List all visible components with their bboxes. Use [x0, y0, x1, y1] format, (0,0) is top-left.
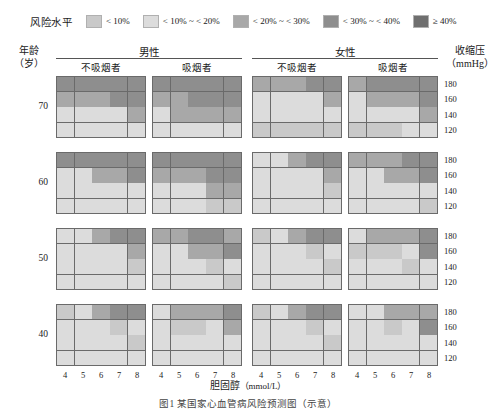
risk-cell — [306, 183, 323, 197]
legend-item-0: < 10% — [86, 15, 130, 28]
risk-cell — [324, 183, 341, 197]
risk-cell — [349, 123, 366, 137]
legend-label-4: ≥ 40% — [433, 16, 457, 26]
risk-cell — [188, 199, 205, 213]
risk-cell — [349, 168, 366, 182]
risk-panel-age40-nonsmoker-female — [252, 304, 342, 366]
risk-cell — [171, 259, 188, 273]
risk-cell — [306, 351, 323, 365]
sbp-tick-label: 140 — [444, 110, 468, 120]
risk-cell — [367, 351, 384, 365]
risk-cell — [57, 123, 74, 137]
risk-cell — [288, 168, 305, 182]
risk-cell — [402, 351, 419, 365]
risk-cell — [306, 275, 323, 289]
sbp-tick-label: 180 — [444, 79, 468, 89]
risk-panel-age60-nonsmoker-female — [252, 152, 342, 214]
risk-cell — [206, 153, 223, 167]
risk-cell — [171, 77, 188, 91]
risk-cell — [402, 199, 419, 213]
risk-cell — [384, 259, 401, 273]
risk-cell — [92, 199, 109, 213]
risk-cell — [367, 199, 384, 213]
risk-cell — [188, 107, 205, 121]
risk-cell — [57, 183, 74, 197]
sbp-tick-label: 120 — [444, 353, 468, 363]
risk-cell — [367, 183, 384, 197]
risk-cell — [349, 229, 366, 243]
risk-cell — [75, 123, 92, 137]
risk-cell — [324, 107, 341, 121]
risk-cell — [128, 107, 145, 121]
risk-cell — [57, 259, 74, 273]
risk-cell — [288, 229, 305, 243]
risk-cell — [402, 123, 419, 137]
risk-panel-age40-nonsmoker-male — [56, 304, 146, 366]
risk-cell — [153, 168, 170, 182]
risk-cell — [384, 305, 401, 319]
risk-cell — [128, 259, 145, 273]
risk-cell — [57, 320, 74, 334]
risk-cell — [75, 92, 92, 106]
risk-cell — [188, 168, 205, 182]
risk-cell — [288, 305, 305, 319]
age-group-label-50: 50 — [26, 253, 48, 263]
risk-cell — [306, 259, 323, 273]
risk-cell — [92, 92, 109, 106]
legend: 风险水平 < 10%< 10% ~ < 20%< 20% ~ < 30%< 30… — [0, 10, 496, 32]
risk-cell — [92, 168, 109, 182]
age-axis-title: 年龄 — [6, 44, 52, 57]
risk-cell — [306, 244, 323, 258]
risk-cell — [224, 229, 241, 243]
risk-cell — [402, 335, 419, 349]
risk-cell — [384, 107, 401, 121]
sbp-tick-label: 160 — [444, 246, 468, 256]
subgroup-header-female-smoker: 吸烟者 — [348, 60, 438, 74]
risk-cell — [206, 351, 223, 365]
risk-cell — [271, 351, 288, 365]
risk-cell — [206, 259, 223, 273]
risk-cell — [188, 335, 205, 349]
risk-cell — [171, 183, 188, 197]
risk-panel-age50-nonsmoker-female — [252, 228, 342, 290]
risk-cell — [253, 199, 270, 213]
risk-cell — [110, 335, 127, 349]
age-group-label-40: 40 — [26, 329, 48, 339]
risk-cell — [110, 92, 127, 106]
risk-cell — [128, 183, 145, 197]
risk-cell — [206, 320, 223, 334]
risk-cell — [206, 244, 223, 258]
risk-cell — [75, 168, 92, 182]
legend-swatch-icon-3 — [323, 15, 339, 28]
risk-cell — [188, 320, 205, 334]
risk-cell — [188, 92, 205, 106]
risk-cell — [75, 229, 92, 243]
risk-cell — [349, 275, 366, 289]
risk-cell — [128, 123, 145, 137]
risk-cell — [324, 259, 341, 273]
risk-cell — [153, 335, 170, 349]
risk-cell — [271, 168, 288, 182]
risk-cell — [224, 335, 241, 349]
sbp-tick-label: 140 — [444, 338, 468, 348]
risk-cell — [206, 123, 223, 137]
risk-cell — [110, 168, 127, 182]
group-header-female: 女性 — [252, 44, 438, 59]
risk-cell — [253, 107, 270, 121]
risk-cell — [420, 168, 437, 182]
risk-cell — [75, 320, 92, 334]
risk-cell — [306, 107, 323, 121]
risk-cell — [420, 259, 437, 273]
risk-cell — [271, 77, 288, 91]
risk-cell — [271, 183, 288, 197]
risk-panel-age50-smoker-male — [152, 228, 242, 290]
risk-cell — [349, 320, 366, 334]
sbp-tick-label: 180 — [444, 231, 468, 241]
risk-cell — [110, 199, 127, 213]
risk-cell — [367, 123, 384, 137]
subgroup-header-female-nonsmoker: 不吸烟者 — [252, 60, 342, 74]
risk-cell — [171, 335, 188, 349]
risk-cell — [349, 153, 366, 167]
risk-cell — [224, 351, 241, 365]
risk-panel-age50-nonsmoker-male — [56, 228, 146, 290]
